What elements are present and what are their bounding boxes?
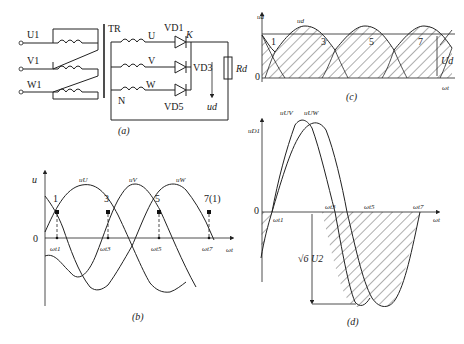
c-origin: 0 — [255, 71, 260, 82]
b-origin: 0 — [33, 233, 38, 244]
label-u1: U1 — [27, 29, 39, 40]
primary-coil-v — [58, 66, 98, 69]
label-vd5: VD5 — [164, 101, 183, 112]
c-point-1: 1 — [271, 36, 276, 47]
b-point-7: 7(1) — [204, 193, 221, 205]
caption-a: (a) — [118, 125, 130, 137]
d-tick-wt7: ωt7 — [413, 203, 424, 211]
panel-b-waveforms: u 0 ωt uU uV uW 1 3 5 7(1) ωt1 ωt3 ωt5 ω… — [32, 172, 234, 323]
b-label-uu: uU — [79, 176, 89, 184]
label-v: V — [148, 55, 156, 66]
label-n: N — [118, 95, 125, 106]
b-point-3: 3 — [104, 193, 109, 204]
c-curve-label: ud — [297, 17, 305, 25]
d-label-uuw: uUW — [304, 109, 320, 117]
label-u: U — [148, 30, 156, 41]
panel-a-circuit: U1 V1 W1 TR U V W N VD1 — [19, 22, 248, 137]
c-x-label: ωt — [442, 84, 450, 92]
terminal-u1 — [19, 41, 23, 45]
diode-vd3 — [162, 61, 191, 73]
d-tick-wt5: ωt5 — [364, 203, 375, 211]
b-tick-wt7: ωt7 — [202, 245, 213, 253]
primary-coil-u — [58, 40, 98, 43]
terminal-v1 — [19, 67, 23, 71]
c-point-7: 7 — [418, 36, 423, 47]
label-vd1: VD1 — [164, 22, 183, 33]
d-tick-wt1: ωt1 — [273, 216, 283, 224]
b-tick-wt5: ωt5 — [151, 245, 162, 253]
panel-c-output: ud 0 ud 1 3 5 7 Ud ωt (c) — [255, 13, 455, 103]
b-tick-wt3: ωt3 — [100, 245, 111, 253]
label-v1: V1 — [27, 55, 39, 66]
d-peak-label: √6 U2 — [298, 253, 323, 264]
label-vd3: VD3 — [193, 62, 212, 73]
c-y-label: ud — [257, 13, 265, 21]
b-point-5: 5 — [155, 193, 160, 204]
curve-uv — [45, 184, 196, 287]
d-y-label: uD1 — [248, 127, 260, 135]
caption-b: (b) — [132, 311, 144, 323]
diode-vd1 — [162, 36, 228, 48]
b-tick-wt1: ωt1 — [50, 245, 60, 253]
terminal-w1 — [19, 90, 23, 94]
b-y-label: u — [32, 174, 37, 185]
label-ud: ud — [207, 101, 218, 112]
label-rd: Rd — [235, 63, 248, 74]
label-k: K — [185, 29, 194, 40]
d-origin: 0 — [254, 205, 259, 216]
label-w: W — [146, 79, 156, 90]
caption-d: (d) — [347, 316, 359, 328]
caption-c: (c) — [346, 91, 358, 103]
b-point-1: 1 — [53, 193, 58, 204]
d-tick-wt3: ωt3 — [325, 203, 336, 211]
c-point-3: 3 — [321, 36, 326, 47]
b-label-uw: uW — [176, 176, 187, 184]
b-x-label: ωt — [226, 246, 234, 254]
c-point-5: 5 — [369, 36, 374, 47]
panel-d-diode-voltage: uD1 0 uUV uUW ωt1 ωt3 ωt5 ωt7 ωt √6 U2 (… — [248, 109, 441, 328]
d-x-label: ωt — [433, 216, 441, 224]
b-label-uv: uV — [129, 176, 138, 184]
diode-vd5 — [162, 84, 191, 96]
primary-coil-w — [58, 89, 98, 92]
label-w1: W1 — [27, 79, 41, 90]
d-label-uuv: uUV — [280, 109, 294, 117]
label-tr: TR — [108, 23, 121, 34]
figure-canvas: U1 V1 W1 TR U V W N VD1 — [0, 0, 464, 344]
c-avg-label: Ud — [441, 55, 454, 66]
